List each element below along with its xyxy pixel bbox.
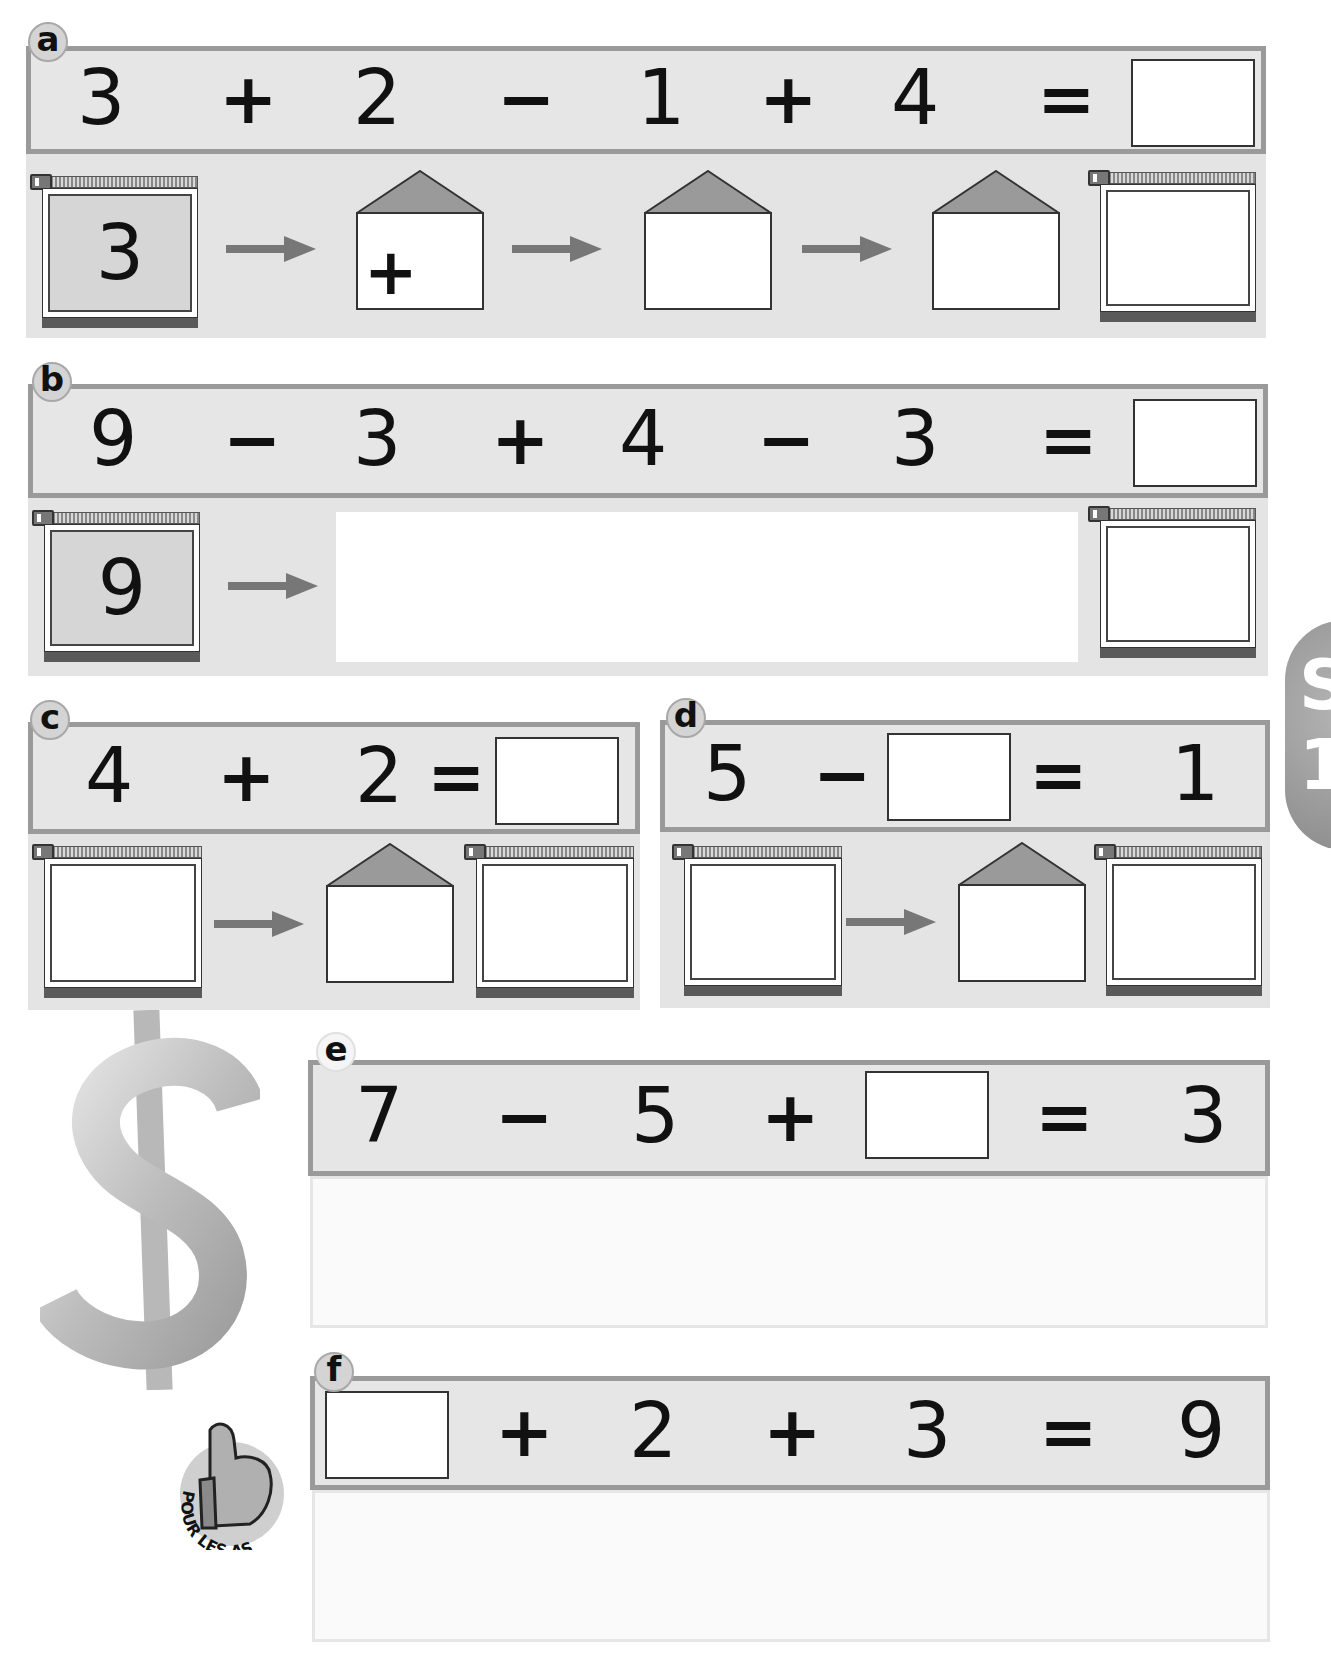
section-label-b: b xyxy=(32,362,72,402)
free-work-area-b[interactable] xyxy=(336,512,1078,662)
eq-e-equals: = xyxy=(1035,1082,1094,1152)
house-a-3[interactable] xyxy=(932,170,1060,310)
zipper-icon xyxy=(476,846,634,858)
bag-value-a: 3 xyxy=(48,194,192,312)
house-op-a-3 xyxy=(932,212,1060,310)
house-a-1[interactable]: + xyxy=(356,170,484,310)
end-bag-a[interactable] xyxy=(1100,172,1256,322)
eq-d-equals: = xyxy=(1029,740,1088,810)
answer-box-c[interactable] xyxy=(495,737,619,825)
missing-box-f[interactable] xyxy=(325,1391,449,1479)
eq-f-op-2: + xyxy=(763,1397,822,1467)
house-op-d xyxy=(958,884,1086,982)
thumbs-up-icon: POUR LES AS xyxy=(170,1410,290,1550)
start-bag-d[interactable] xyxy=(684,846,842,996)
missing-box-d[interactable] xyxy=(887,733,1011,821)
section-label-e: e xyxy=(316,1032,356,1072)
eq-b-term-3: 4 xyxy=(619,401,667,477)
equation-bar-d: 5 − = 1 xyxy=(660,720,1270,832)
eq-b-term-4: 3 xyxy=(891,401,939,477)
work-area-f[interactable] xyxy=(312,1490,1270,1642)
eq-a-op-2: − xyxy=(497,64,556,134)
eq-d-term-1: 5 xyxy=(703,736,751,812)
eq-f-equals: = xyxy=(1039,1397,1098,1467)
end-bag-d[interactable] xyxy=(1106,846,1262,996)
arrow-right-icon xyxy=(228,573,318,599)
house-c[interactable] xyxy=(326,843,454,983)
eq-e-op-1: − xyxy=(495,1082,554,1152)
section-label-a: a xyxy=(28,22,68,62)
arrow-right-icon xyxy=(802,236,892,262)
eq-e-term-2: 5 xyxy=(631,1078,679,1154)
bag-value-c xyxy=(50,864,196,982)
eq-a-op-3: + xyxy=(759,64,818,134)
eq-f-op-1: + xyxy=(495,1397,554,1467)
eq-b-term-2: 3 xyxy=(353,401,401,477)
zipper-icon xyxy=(684,846,842,858)
end-bag-c[interactable] xyxy=(476,846,634,998)
zipper-icon xyxy=(44,512,200,524)
missing-box-e[interactable] xyxy=(865,1071,989,1159)
chapter-tab: S 1 xyxy=(1285,620,1331,850)
eq-a-term-1: 3 xyxy=(77,60,125,136)
pour-les-as-badge: POUR LES AS xyxy=(170,1410,290,1550)
bag-value-end-c xyxy=(482,864,628,982)
equation-bar-c: 4 + 2 = xyxy=(28,722,640,834)
eq-b-equals: = xyxy=(1039,405,1098,475)
eq-a-term-3: 1 xyxy=(637,60,685,136)
section-label-f: f xyxy=(314,1352,354,1392)
zipper-icon xyxy=(42,176,198,188)
eq-d-result: 1 xyxy=(1171,736,1219,812)
house-roof-icon xyxy=(932,170,1060,214)
equation-bar-e: 7 − 5 + = 3 xyxy=(308,1060,1270,1176)
eq-f-term-3: 3 xyxy=(903,1393,951,1469)
equation-bar-f: + 2 + 3 = 9 xyxy=(310,1376,1270,1490)
eq-c-term-1: 4 xyxy=(85,738,133,814)
eq-c-term-2: 2 xyxy=(355,738,403,814)
start-bag-a[interactable]: 3 xyxy=(42,176,198,328)
house-roof-icon xyxy=(356,170,484,214)
arrow-right-icon xyxy=(512,236,602,262)
eq-c-equals: = xyxy=(427,742,486,812)
eq-b-op-2: + xyxy=(491,405,550,475)
house-op-c xyxy=(326,885,454,983)
bag-value-b: 9 xyxy=(50,530,194,646)
eq-e-result: 3 xyxy=(1179,1078,1227,1154)
bag-value-end-a xyxy=(1106,190,1250,306)
zipper-icon xyxy=(1100,172,1256,184)
equation-bar-a: 3 + 2 − 1 + 4 = xyxy=(26,46,1266,154)
arrow-right-icon xyxy=(214,911,304,937)
house-roof-icon xyxy=(326,843,454,887)
zipper-icon xyxy=(1106,846,1262,858)
eq-a-op-1: + xyxy=(219,64,278,134)
start-bag-b[interactable]: 9 xyxy=(44,512,200,662)
eq-e-term-1: 7 xyxy=(355,1078,403,1154)
work-area-e[interactable] xyxy=(310,1176,1268,1328)
house-a-2[interactable] xyxy=(644,170,772,310)
end-bag-b[interactable] xyxy=(1100,508,1256,658)
eq-d-op-1: − xyxy=(813,740,872,810)
eq-b-term-1: 9 xyxy=(89,401,137,477)
section-label-c: c xyxy=(30,700,70,740)
answer-box-b[interactable] xyxy=(1133,399,1257,487)
zipper-icon xyxy=(1100,508,1256,520)
eq-a-term-2: 2 xyxy=(353,60,401,136)
eq-f-term-2: 2 xyxy=(629,1393,677,1469)
eq-a-term-4: 4 xyxy=(891,60,939,136)
bag-value-d xyxy=(690,864,836,980)
answer-box-a[interactable] xyxy=(1131,59,1255,147)
eq-c-op-1: + xyxy=(217,742,276,812)
house-op-a-1: + xyxy=(356,212,484,310)
house-roof-icon xyxy=(958,842,1086,886)
eq-a-equals: = xyxy=(1037,64,1096,134)
arrow-right-icon xyxy=(846,909,936,935)
eq-b-op-3: − xyxy=(757,405,816,475)
eq-b-op-1: − xyxy=(223,405,282,475)
bag-value-end-d xyxy=(1112,864,1256,980)
house-d[interactable] xyxy=(958,842,1086,982)
house-op-a-2 xyxy=(644,212,772,310)
dollar-sign-icon xyxy=(40,1010,260,1390)
house-roof-icon xyxy=(644,170,772,214)
start-bag-c[interactable] xyxy=(44,846,202,998)
equation-bar-b: 9 − 3 + 4 − 3 = xyxy=(28,384,1268,498)
